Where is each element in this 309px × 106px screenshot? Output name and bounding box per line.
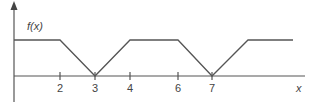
tick-label-3: 3 (92, 83, 98, 94)
y-axis-label: f(x) (27, 21, 43, 32)
x-axis-label: x (296, 83, 302, 94)
function-line (14, 40, 293, 76)
y-axis-arrow-icon (11, 1, 18, 10)
function-graph: f(x) x 2 3 4 6 7 (0, 0, 309, 106)
tick-label-6: 6 (175, 83, 181, 94)
tick-label-2: 2 (57, 83, 63, 94)
tick-label-7: 7 (209, 83, 215, 94)
graph-canvas (0, 0, 309, 106)
tick-label-4: 4 (127, 83, 133, 94)
